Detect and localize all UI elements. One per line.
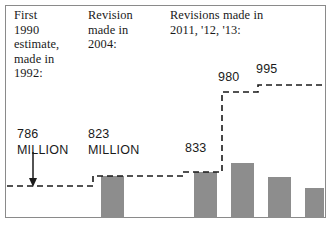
unit-label-786: MILLION [17,143,68,157]
value-label-823: 823 [88,127,109,141]
unit-label-823: MILLION [88,143,139,157]
bar-3 [231,163,254,218]
chart-graphics [0,0,332,227]
value-label-980: 980 [218,70,239,84]
revision-step-line [7,85,325,186]
bar-2 [194,172,217,218]
chart-figure: First 1990 estimate, made in 1992: Revis… [0,0,332,227]
value-label-995: 995 [256,62,277,76]
value-label-786: 786 [17,127,38,141]
bar-1 [101,176,124,218]
value-label-833: 833 [185,141,206,155]
bar-4 [268,177,291,218]
bar-5 [305,188,324,218]
